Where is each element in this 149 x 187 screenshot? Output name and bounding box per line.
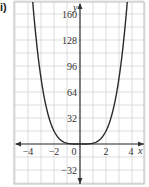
x-tick-label: 4	[129, 146, 134, 157]
x-tick-label: 2	[104, 146, 109, 157]
x-tick-label: −2	[49, 146, 60, 157]
y-tick-label: 160	[62, 9, 77, 20]
chart: xy−4−2024−32326496128160	[0, 0, 149, 187]
x-arrow-left-icon	[15, 142, 21, 147]
x-axis-label: x	[137, 145, 143, 156]
y-tick-label: 32	[67, 113, 77, 124]
y-tick-label: 128	[62, 35, 77, 46]
y-tick-label: −32	[61, 165, 77, 176]
y-tick-label: 64	[67, 87, 77, 98]
y-arrow-up-icon	[78, 3, 83, 9]
x-tick-label: −4	[23, 146, 34, 157]
y-tick-label: 96	[67, 61, 77, 72]
x-tick-label: 0	[72, 146, 77, 157]
